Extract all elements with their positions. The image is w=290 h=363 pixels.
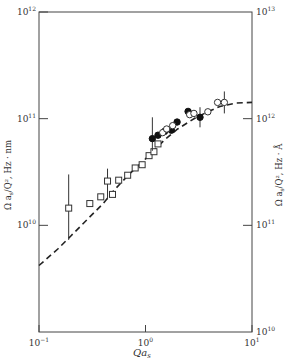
y-tick-label-right: 1010 <box>256 325 275 337</box>
axis-ticks: 10−11001011010101110121010101110121013 <box>17 5 275 348</box>
open-square-marker <box>155 141 161 147</box>
open-square-marker <box>105 178 111 184</box>
axis-labels: Qas Ω as/Q², Hz · nm Ω as/Q², Hz · Å <box>3 140 285 360</box>
filled-circle-marker <box>197 114 203 120</box>
open-square-marker <box>66 205 72 211</box>
y-tick-label-right: 1012 <box>256 112 275 124</box>
open-circle-marker <box>214 99 220 105</box>
open-square-marker <box>110 191 116 197</box>
x-tick-label: 10−1 <box>29 336 49 348</box>
x-axis-label: Qas <box>133 347 151 360</box>
open-square-marker <box>116 177 122 183</box>
y-tick-label-right: 1013 <box>256 5 275 17</box>
y-axis-label-right: Ω as/Q², Hz · Å <box>273 143 285 207</box>
open-circle-marker <box>205 109 211 115</box>
y-tick-label-right: 1011 <box>256 218 275 230</box>
x-tick-label: 101 <box>244 336 259 348</box>
open-circle-marker <box>169 122 175 128</box>
plot-frame <box>39 12 252 332</box>
plot-border <box>39 12 252 332</box>
open-square-marker <box>98 194 104 200</box>
open-square-marker <box>132 165 138 171</box>
y-axis-label-left: Ω as/Q², Hz · nm <box>3 140 14 210</box>
theory-curve <box>39 102 252 265</box>
y-tick-label-left: 1010 <box>17 218 36 230</box>
open-circle-marker <box>163 126 169 132</box>
open-square-marker <box>87 201 93 207</box>
open-square-marker <box>151 149 157 155</box>
open-circle-marker <box>221 99 227 105</box>
open-square-marker <box>125 172 131 178</box>
open-circle-marker <box>191 110 197 116</box>
y-tick-label-left: 1011 <box>17 112 36 124</box>
theory-curve-path <box>39 102 252 265</box>
y-tick-label-left: 1012 <box>17 5 36 17</box>
open-square-marker <box>139 162 145 168</box>
chart-svg: 10−11001011010101110121010101110121013 Q… <box>0 0 290 363</box>
chart: 10−11001011010101110121010101110121013 Q… <box>0 0 290 363</box>
